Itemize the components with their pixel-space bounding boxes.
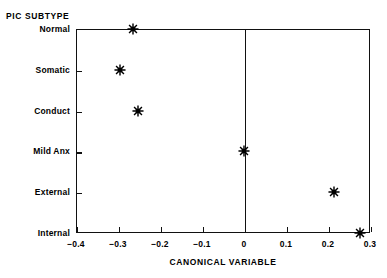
y-axis-tick-label: External	[0, 187, 70, 197]
zero-reference-line	[245, 30, 246, 232]
x-axis-tick	[203, 227, 204, 232]
x-axis-tick	[77, 227, 78, 232]
x-axis-tick-label: −0.1	[193, 239, 211, 249]
x-axis-tick	[245, 227, 246, 232]
x-axis-tick-label: 0.3	[364, 239, 376, 249]
data-point-marker[interactable]	[354, 227, 367, 240]
x-axis-tick	[287, 227, 288, 232]
x-axis-tick-label: −0.3	[109, 239, 127, 249]
x-axis-tick-label: −0.2	[151, 239, 169, 249]
y-axis-tick-label: Normal	[0, 24, 70, 34]
x-axis-tick	[371, 227, 372, 232]
x-axis-tick-label: 0.2	[322, 239, 334, 249]
data-point-marker[interactable]	[328, 186, 341, 199]
x-axis-tick-label: 0.1	[280, 239, 292, 249]
y-axis-tick	[77, 71, 82, 72]
data-point-marker[interactable]	[126, 23, 139, 36]
x-axis-tick	[161, 227, 162, 232]
y-axis-tick	[77, 112, 82, 113]
y-axis-tick-label: Somatic	[0, 65, 70, 75]
x-axis-tick	[329, 227, 330, 232]
scatter-chart-figure: PIC SUBTYPE CANONICAL VARIABLE −0.4−0.3−…	[0, 0, 387, 278]
y-axis-tick	[77, 152, 82, 153]
x-axis-tick-label: −0.4	[67, 239, 85, 249]
plot-area	[76, 29, 370, 233]
data-point-marker[interactable]	[114, 63, 127, 76]
y-axis-tick-label: Internal	[0, 228, 70, 238]
data-point-marker[interactable]	[238, 145, 251, 158]
x-axis-tick-label: 0	[242, 239, 247, 249]
x-axis-title: CANONICAL VARIABLE	[76, 257, 370, 267]
y-axis-tick-label: Mild Anx	[0, 146, 70, 156]
x-axis-tick	[119, 227, 120, 232]
y-axis-tick-label: Conduct	[0, 106, 70, 116]
y-axis-tick	[77, 193, 82, 194]
data-point-marker[interactable]	[132, 104, 145, 117]
